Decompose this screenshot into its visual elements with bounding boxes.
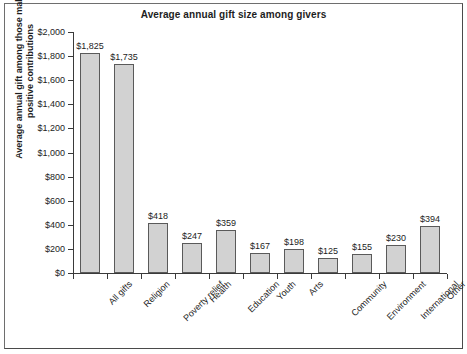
x-axis-tick <box>175 274 176 279</box>
x-axis-tick <box>277 274 278 279</box>
y-axis-tick <box>68 249 73 250</box>
bar-value-label: $359 <box>216 218 236 228</box>
y-axis-tick-label: $1,400 <box>37 99 65 109</box>
y-axis-tick <box>68 177 73 178</box>
y-axis-tick <box>68 56 73 57</box>
y-axis-tick <box>68 104 73 105</box>
x-axis-tick <box>413 274 414 279</box>
bar <box>148 223 168 273</box>
bar-value-label: $230 <box>386 233 406 243</box>
x-axis-tick <box>379 274 380 279</box>
y-axis-tick-label: $2,000 <box>37 27 65 37</box>
bar <box>80 53 100 273</box>
y-axis-tick <box>68 225 73 226</box>
bar <box>352 254 372 273</box>
y-axis-tick-label: $200 <box>45 244 65 254</box>
x-axis-tick <box>107 274 108 279</box>
y-axis-tick <box>68 153 73 154</box>
bar <box>284 249 304 273</box>
plot-area: $0$200$400$600$800$1,000$1,200$1,400$1,6… <box>73 32 447 274</box>
bar <box>114 64 134 273</box>
x-axis-tick <box>345 274 346 279</box>
x-axis-line <box>73 273 447 274</box>
bar <box>182 243 202 273</box>
bar <box>318 258 338 273</box>
x-axis-tick <box>243 274 244 279</box>
chart-title: Average annual gift size among givers <box>0 9 467 20</box>
bar-value-label: $1,735 <box>110 52 138 62</box>
bar <box>216 230 236 273</box>
y-axis-tick-label: $1,600 <box>37 75 65 85</box>
y-axis-tick-label: $800 <box>45 172 65 182</box>
x-axis-tick <box>209 274 210 279</box>
x-axis-tick <box>73 274 74 279</box>
y-axis-tick <box>68 128 73 129</box>
y-axis-title: Average annual gift among those making p… <box>14 0 36 186</box>
chart-figure: Average annual gift size among givers Av… <box>0 0 467 354</box>
bar <box>250 253 270 273</box>
y-axis-tick <box>68 201 73 202</box>
bar-value-label: $167 <box>250 241 270 251</box>
x-axis-tick <box>141 274 142 279</box>
y-axis-tick-label: $1,800 <box>37 51 65 61</box>
bar-value-label: $155 <box>352 242 372 252</box>
y-axis-tick-label: $1,200 <box>37 123 65 133</box>
x-axis-tick <box>447 274 448 279</box>
x-axis-tick <box>311 274 312 279</box>
bar-value-label: $1,825 <box>76 41 104 51</box>
bar <box>420 226 440 273</box>
y-axis-tick-label: $0 <box>55 268 65 278</box>
bar-value-label: $125 <box>318 246 338 256</box>
bar-value-label: $418 <box>148 211 168 221</box>
y-axis-tick-label: $1,000 <box>37 148 65 158</box>
bar-value-label: $394 <box>420 214 440 224</box>
bar-value-label: $198 <box>284 237 304 247</box>
bar <box>386 245 406 273</box>
y-axis-line <box>73 32 74 274</box>
y-axis-tick-label: $400 <box>45 220 65 230</box>
y-axis-tick <box>68 32 73 33</box>
y-axis-tick-label: $600 <box>45 196 65 206</box>
y-axis-title-line-1: Average annual gift among those making <box>14 0 25 186</box>
y-axis-title-line-2: positive contributions <box>25 0 36 186</box>
y-axis-tick <box>68 80 73 81</box>
bar-value-label: $247 <box>182 231 202 241</box>
